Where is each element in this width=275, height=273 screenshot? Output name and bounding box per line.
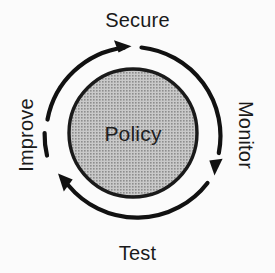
stage-label-improve: Improve: [16, 98, 36, 172]
stage-label-secure: Secure: [0, 10, 275, 30]
cycle-diagram: Secure Monitor Test Improve Policy: [0, 0, 275, 273]
policy-center-label: Policy: [104, 123, 161, 144]
arrow-to-test: [45, 133, 47, 156]
stage-label-test: Test: [0, 243, 275, 263]
stage-label-monitor: Monitor: [236, 101, 256, 169]
